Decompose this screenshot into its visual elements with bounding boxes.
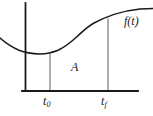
axis-label-t0-subscript: 0	[47, 100, 51, 109]
axis-label-t0: t0	[43, 95, 50, 107]
axis-label-tf: tf	[101, 95, 107, 107]
area-under-curve-figure: t0 tf A f(t)	[0, 0, 153, 116]
area-region-label: A	[71, 61, 78, 73]
axis-label-tf-base: t	[101, 94, 104, 108]
axis-label-t0-base: t	[43, 94, 46, 108]
axis-label-tf-subscript: f	[105, 100, 107, 109]
function-curve-label: f(t)	[124, 15, 139, 27]
